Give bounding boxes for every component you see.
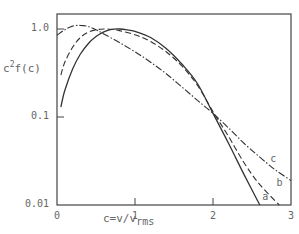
y-axis-label-base: c [3, 62, 10, 75]
curve-a [61, 29, 260, 205]
y-tick-label: 0.1 [31, 110, 49, 121]
curve-label-b: b [276, 177, 282, 188]
plot-border [57, 14, 291, 205]
curve-label-c: c [270, 153, 276, 164]
x-axis-label-sub: rms [136, 216, 154, 227]
plot-frame [57, 14, 291, 205]
y-axis-label-rest: f(c) [14, 62, 41, 75]
x-axis-label: c=v/vrms [103, 212, 154, 225]
curve-label-a: a [262, 191, 268, 202]
x-axis-label-main: c=v/v [103, 212, 136, 225]
x-tick-label: 2 [210, 210, 216, 221]
curve-c [57, 25, 291, 180]
axis-ticks [57, 29, 213, 205]
y-tick-label: 0.01 [25, 198, 49, 209]
plot-curves [57, 25, 291, 205]
x-tick-label: 0 [54, 210, 60, 221]
y-axis-label: c2f(c) [3, 60, 41, 75]
x-tick-label: 3 [288, 210, 294, 221]
y-tick-label: 1.0 [31, 22, 49, 33]
